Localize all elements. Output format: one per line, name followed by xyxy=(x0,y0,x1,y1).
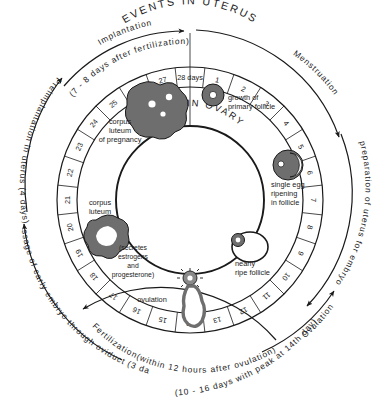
day-number[interactable]: 13 xyxy=(212,315,222,326)
label-line: corpus xyxy=(109,117,131,126)
label-line: single egg xyxy=(271,180,305,189)
day-tick xyxy=(302,213,322,215)
day-number[interactable]: 20 xyxy=(65,222,76,232)
day-tick xyxy=(77,129,94,140)
day-tick xyxy=(297,237,316,244)
diagram-canvas: 28 days123456789101112131415161718192021… xyxy=(0,0,380,411)
label-ovulation-event: ovulation xyxy=(137,295,167,304)
day-tick xyxy=(58,185,78,187)
label-line: ripe follicle xyxy=(235,268,270,277)
day-tick xyxy=(77,260,94,271)
day-number[interactable]: 22 xyxy=(65,168,76,178)
day-number[interactable]: 19 xyxy=(73,248,85,259)
label-line: luteum xyxy=(109,126,131,135)
day-number[interactable]: 1 xyxy=(214,75,220,85)
day-number[interactable]: 23 xyxy=(73,141,85,152)
label-preparation-of-uterus: preparation of uterus for embryo xyxy=(333,140,373,288)
day-number[interactable]: 16 xyxy=(131,305,142,317)
day-tick xyxy=(64,156,83,163)
day-number[interactable]: 11 xyxy=(261,290,273,302)
day-tick xyxy=(203,68,205,88)
label-line: and xyxy=(127,262,139,269)
day-tick xyxy=(286,129,303,140)
day-number[interactable]: 24 xyxy=(88,117,100,129)
day-number[interactable]: 10 xyxy=(280,271,292,283)
day-number[interactable]: 8 xyxy=(305,224,315,230)
day-number[interactable]: 9 xyxy=(296,250,306,258)
menstrual-cycle-diagram: 28 days123456789101112131415161718192021… xyxy=(0,0,380,411)
day-number[interactable]: 15 xyxy=(158,315,168,326)
day-number[interactable]: 25 xyxy=(107,98,119,110)
icon-corpus-luteum-of-pregnancy xyxy=(125,82,188,139)
day-number[interactable]: 7 xyxy=(309,198,318,202)
day-number[interactable]: 6 xyxy=(305,170,315,176)
day-tick xyxy=(227,307,234,326)
day-tick xyxy=(270,280,284,294)
label-growth-of-primary-follicle: growth ofprimary follicle xyxy=(228,93,275,111)
day-tick xyxy=(58,213,78,215)
day-tick xyxy=(250,296,261,313)
icon-nearly-ripe-follicle xyxy=(232,232,269,262)
plain-label-group: corpusluteumof pregnancygrowth ofprimary… xyxy=(89,93,305,304)
day-tick xyxy=(227,74,234,93)
day-number[interactable]: 4 xyxy=(281,119,291,128)
day-tick xyxy=(96,280,110,294)
icon-single-egg-ripening xyxy=(273,150,303,180)
day-tick xyxy=(302,185,322,187)
day-number[interactable]: 5 xyxy=(296,143,306,151)
day-tick xyxy=(64,237,83,244)
label-menstruation: Menstruation xyxy=(291,48,341,97)
label-line: ripening xyxy=(271,189,297,198)
day-tick xyxy=(286,260,303,271)
label-line: ovulation xyxy=(137,295,167,304)
label-line: primary follicle xyxy=(228,102,275,111)
label-line: luteum xyxy=(89,207,111,216)
label-line: (secretes xyxy=(119,244,148,252)
label-line: growth of xyxy=(228,93,259,102)
label-line: of pregnancy xyxy=(99,135,142,144)
label-fertilization: Fertilization(within 12 hours after ovul… xyxy=(90,321,277,375)
icon-ovulation-event xyxy=(177,268,205,326)
icon-primary-follicle xyxy=(202,84,224,106)
day-number[interactable]: 18 xyxy=(88,271,100,283)
label-line: progesterone) xyxy=(112,271,154,279)
label-line: corpus xyxy=(89,198,111,207)
label-single-egg-ripening: single eggripeningin follicle xyxy=(271,180,305,207)
label-nearly-ripe-follicle: nearlyripe follicle xyxy=(235,259,270,277)
day-tick xyxy=(175,312,177,332)
day-tick xyxy=(146,307,153,326)
day-tick xyxy=(119,296,130,313)
label-line: in follicle xyxy=(271,198,299,207)
label-corpus-luteum: corpusluteum xyxy=(89,198,111,216)
label-line: nearly xyxy=(235,259,255,268)
day-number[interactable]: 21 xyxy=(63,196,72,204)
day-number[interactable]: 28 days xyxy=(177,73,203,82)
label-line: estrogens xyxy=(118,253,148,261)
